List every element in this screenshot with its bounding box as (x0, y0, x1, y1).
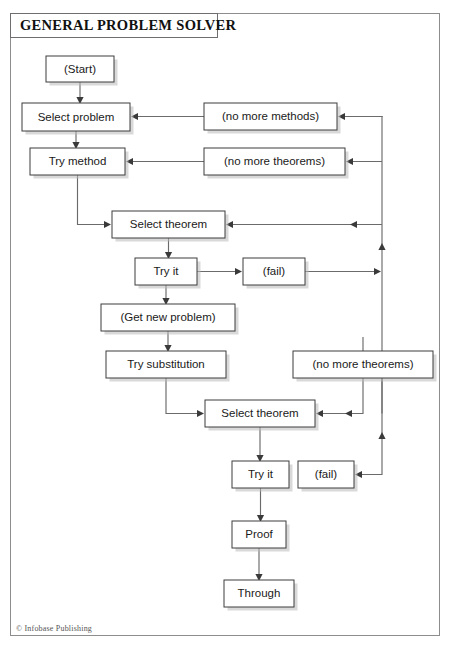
lower-bus-up-arrowhead (378, 432, 385, 439)
flow-node-fail2: (fail) (298, 461, 358, 492)
node-layer: (Start)Select problemTry method(no more … (22, 56, 437, 611)
node-label: (fail) (315, 468, 338, 480)
flow-node-start: (Start) (46, 56, 118, 86)
node-label: (fail) (263, 265, 286, 277)
node-label: Try method (49, 155, 107, 167)
flow-node-through: Through (224, 580, 298, 611)
node-label: (no more methods) (222, 110, 319, 122)
node-label: (Start) (64, 63, 96, 75)
node-label: Try it (248, 468, 274, 480)
flow-node-try_subst: Try substitution (106, 351, 230, 382)
flow-node-no_theorems1: (no more theorems) (204, 148, 349, 179)
edge-no-more-theorems2-to-select-theorem2 (317, 378, 363, 414)
node-label: Select problem (38, 111, 115, 123)
flow-node-no_methods: (no more methods) (204, 103, 341, 134)
node-label: Through (238, 587, 281, 599)
flow-node-select_thm1: Select theorem (112, 211, 229, 242)
lower-feed-mid-arrowhead (345, 410, 352, 417)
flow-node-select_prob: Select problem (22, 103, 134, 135)
flow-node-try_it1: Try it (135, 258, 201, 289)
flow-node-proof: Proof (232, 521, 290, 552)
right-bus-up-arrowhead (378, 243, 385, 250)
node-label: Try it (153, 265, 179, 277)
edge-right-bus-to-no-more-methods (339, 116, 382, 117)
flow-node-fail1: (fail) (243, 258, 309, 289)
flow-node-no_theorems2: (no more theorems) (293, 351, 437, 382)
flow-node-get_new_prob: (Get new problem) (101, 304, 239, 335)
edge-try-method-to-select-theorem1 (78, 175, 110, 225)
arrowhead (197, 410, 204, 417)
footer-divider (10, 635, 440, 636)
node-label: (Get new problem) (120, 311, 215, 323)
node-label: Select theorem (221, 407, 298, 419)
edge-fail2-to-lower-bus (356, 378, 382, 475)
node-label: Try substitution (127, 358, 205, 370)
right-bus-mid-arrowhead (350, 221, 357, 228)
node-label: (no more theorems) (313, 358, 414, 370)
arrowhead (235, 268, 242, 275)
node-label: (no more theorems) (224, 155, 325, 167)
node-label: Select theorem (130, 218, 207, 230)
flow-node-try_method: Try method (30, 148, 129, 179)
flow-node-select_thm2: Select theorem (205, 400, 319, 431)
flowchart-canvas: (Start)Select problemTry method(no more … (0, 0, 452, 653)
diagram-page: GENERAL PROBLEM SOLVER (Start)Select pro… (0, 0, 452, 653)
arrowhead (374, 268, 381, 275)
edge-try-substitution-to-select-theorem2 (166, 378, 202, 414)
arrowhead (104, 221, 111, 228)
flow-node-try_it2: Try it (232, 461, 293, 492)
copyright-credit: © Infobase Publishing (16, 624, 92, 633)
node-label: Proof (245, 528, 273, 540)
